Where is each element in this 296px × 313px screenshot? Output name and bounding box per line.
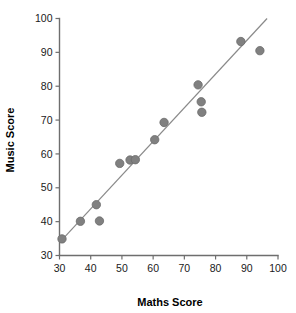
y-tick-label-80: 80 [41, 80, 53, 92]
data-point [197, 98, 205, 106]
y-tick-label-100: 100 [35, 12, 53, 24]
x-tick-label-70: 70 [179, 262, 191, 274]
y-tick-label-60: 60 [41, 148, 53, 160]
x-axis-tick-labels: 30405060708090100 [54, 262, 287, 274]
y-tick-label-30: 30 [41, 249, 53, 261]
y-axis-tick-labels: 30405060708090100 [35, 12, 53, 261]
data-point [160, 118, 168, 126]
data-point [92, 201, 100, 209]
data-point [237, 37, 245, 45]
x-tick-label-90: 90 [241, 262, 253, 274]
regression-line [60, 19, 267, 242]
data-points [58, 37, 264, 243]
trend-line [60, 19, 267, 242]
x-axis-title: Maths Score [137, 296, 202, 308]
data-point [116, 159, 124, 167]
x-tick-label-30: 30 [54, 262, 66, 274]
y-tick-label-50: 50 [41, 181, 53, 193]
data-point [151, 136, 159, 144]
scatter-chart: 30405060708090100 30405060708090100 Math… [0, 0, 296, 313]
y-tick-label-40: 40 [41, 215, 53, 227]
data-point [256, 46, 264, 54]
data-point [58, 235, 66, 243]
x-tick-label-40: 40 [85, 262, 97, 274]
x-tick-label-80: 80 [210, 262, 222, 274]
x-tick-label-50: 50 [116, 262, 128, 274]
data-point [76, 217, 84, 225]
y-tick-label-70: 70 [41, 114, 53, 126]
y-axis: 30405060708090100 [35, 12, 60, 261]
data-point [194, 81, 202, 89]
data-point [131, 155, 139, 163]
data-point [95, 217, 103, 225]
y-axis-title: Music Score [4, 108, 16, 173]
chart-canvas: 30405060708090100 30405060708090100 Math… [0, 0, 296, 313]
x-tick-label-60: 60 [147, 262, 159, 274]
x-tick-label-100: 100 [269, 262, 287, 274]
y-tick-label-90: 90 [41, 46, 53, 58]
data-point [198, 108, 206, 116]
x-axis: 30405060708090100 [54, 256, 287, 274]
